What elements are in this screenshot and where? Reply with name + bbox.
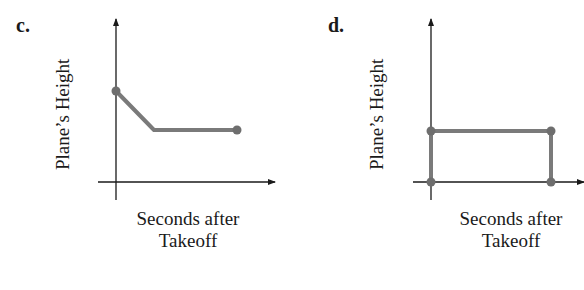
chart-d-ylabel: Plane’s Height: [366, 59, 388, 170]
data-point: [112, 87, 121, 96]
chart-d-series: [427, 127, 556, 187]
chart-d-axes: [413, 19, 584, 200]
panel-label-d: d.: [328, 14, 344, 37]
chart-c-series: [112, 87, 242, 135]
data-point: [233, 126, 242, 135]
xlabel-line2: Takeoff: [118, 230, 258, 252]
xlabel-line1: Seconds after: [118, 208, 258, 230]
chart-c-ylabel: Plane’s Height: [52, 59, 74, 170]
panel-label-c: c.: [16, 14, 30, 37]
data-point: [547, 178, 556, 187]
data-point: [427, 178, 436, 187]
chart-c-axes: [98, 19, 275, 200]
xlabel-line2: Takeoff: [441, 230, 581, 252]
chart-d-xlabel: Seconds after Takeoff: [441, 208, 581, 252]
data-point: [427, 127, 436, 136]
data-point: [547, 127, 556, 136]
chart-c-xlabel: Seconds after Takeoff: [118, 208, 258, 252]
xlabel-line1: Seconds after: [441, 208, 581, 230]
